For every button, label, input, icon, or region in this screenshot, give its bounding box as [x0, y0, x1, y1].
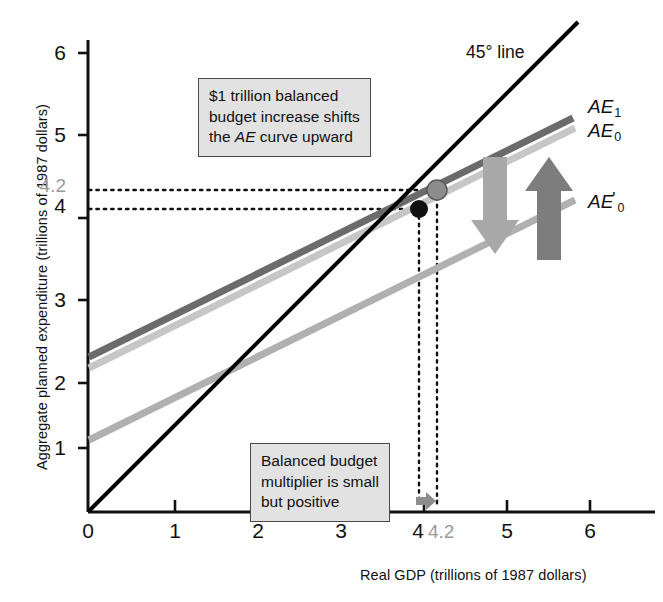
equilibrium-point-new [427, 180, 447, 200]
x-tick-label-6: 6 [570, 519, 610, 543]
x-tick-label-2: 2 [238, 519, 278, 543]
curve-label-ae0-prime: AE'0 [588, 191, 624, 213]
y-tick-label-6: 6 [26, 41, 66, 65]
x-axis-title: Real GDP (trillions of 1987 dollars) [360, 567, 587, 583]
curve-label-ae0-subscript: 0 [614, 130, 621, 144]
shift-callout-ae-token: AE [235, 128, 256, 145]
multiplier-callout-line-3: but positive [261, 492, 379, 513]
y-tick-label-4: 4 [26, 194, 66, 218]
curve-label-ae1: AE1 [588, 96, 620, 118]
x-tick-label-1: 1 [155, 519, 195, 543]
curve-label-ae0: AE0 [588, 120, 620, 142]
curve-label-ae1-subscript: 1 [614, 106, 621, 120]
aggregate-expenditure-chart: Aggregate planned expenditure (trillions… [0, 0, 663, 602]
x-tick-label-4point2: 4.2 [428, 521, 474, 543]
x-tick-label-5: 5 [487, 519, 527, 543]
multiplier-callout-line-1: Balanced budget [261, 451, 379, 472]
y-tick-label-5: 5 [26, 123, 66, 147]
curve-label-ae0-prime-mark: ' [612, 189, 615, 208]
curve-label-ae0-text: AE [588, 120, 613, 141]
x-tick-label-3: 3 [321, 519, 361, 543]
shift-callout-line-2: budget increase shifts [209, 107, 360, 128]
multiplier-callout-line-2: multiplier is small [261, 472, 379, 493]
shift-callout-line-1: $1 trillion balanced [209, 86, 360, 107]
gdp-change-arrow [416, 492, 436, 510]
curve-label-ae1-text: AE [588, 96, 613, 117]
y-tick-label-2: 2 [26, 371, 66, 395]
curve-label-ae0-prime-subscript: 0 [618, 201, 625, 215]
shift-callout: $1 trillion balanced budget increase shi… [198, 78, 371, 157]
shift-up-arrow [525, 157, 573, 260]
curve-label-ae0-prime-text: AE [588, 191, 613, 212]
equilibrium-point-initial [410, 200, 428, 218]
shift-callout-line-3: the AE curve upward [209, 127, 360, 148]
shift-callout-line-3-prefix: the [209, 128, 235, 145]
shift-callout-line-3-suffix: curve upward [256, 128, 353, 145]
y-tick-label-3: 3 [26, 288, 66, 312]
multiplier-callout: Balanced budget multiplier is small but … [250, 443, 390, 522]
shift-down-arrow [471, 157, 519, 254]
y-tick-label-1: 1 [26, 436, 66, 460]
y-axis-title: Aggregate planned expenditure (trillions… [34, 104, 50, 470]
line-45-degree-label: 45° line [466, 42, 525, 63]
x-tick-label-0: 0 [68, 519, 108, 543]
